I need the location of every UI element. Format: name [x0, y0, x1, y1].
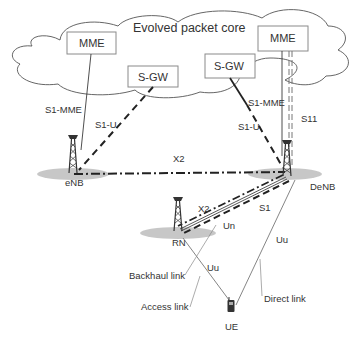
enb-label: eNB	[65, 177, 83, 188]
uu-rn-label: Uu	[207, 262, 219, 273]
rn-label: RN	[172, 237, 186, 248]
s1-u-left-label: S1-U	[95, 119, 117, 130]
svg-text:MME: MME	[79, 37, 105, 49]
ue-phone-icon	[228, 297, 235, 312]
s11-label: S11	[301, 113, 317, 124]
un-label: Un	[223, 220, 235, 231]
direct-link-label: Direct link	[264, 293, 306, 304]
enb-tower-icon	[68, 135, 78, 173]
svg-text:S-GW: S-GW	[138, 71, 169, 83]
x2-rn-label: X2	[198, 203, 210, 214]
x2-top-label: X2	[173, 153, 185, 164]
sgw-left-node: S-GW	[128, 66, 178, 87]
backhaul-link-label: Backhaul link	[129, 270, 185, 281]
denb-label: DeNB	[310, 181, 335, 192]
access-pointer	[190, 276, 200, 307]
access-link-label: Access link	[141, 301, 189, 312]
svg-text:MME: MME	[270, 32, 296, 44]
ue-label: UE	[225, 321, 238, 332]
denb-cell-coverage	[248, 168, 322, 180]
lte-relay-architecture-diagram: Evolved packet core MME S-GW S-GW MME	[0, 0, 359, 341]
x2-rn-link	[178, 175, 283, 226]
mme-right-node: MME	[258, 26, 308, 51]
s1-u-right-label: S1-U	[238, 121, 260, 132]
s1-u-right-link	[247, 105, 283, 168]
uu-access-link	[183, 238, 229, 300]
s1-mme-left-label: S1-MME	[45, 104, 82, 115]
s1-rn-label: S1	[259, 202, 271, 213]
mme-left-node: MME	[67, 32, 116, 54]
svg-text:S-GW: S-GW	[214, 60, 245, 72]
cloud-label: Evolved packet core	[133, 21, 246, 35]
sgw-right-node: S-GW	[205, 54, 255, 78]
direct-pointer	[260, 259, 262, 296]
s1-mme-right-link	[230, 78, 247, 105]
uu-denb-label: Uu	[276, 234, 288, 245]
denb-tower-icon	[282, 140, 292, 176]
evolved-packet-core-cloud: Evolved packet core	[12, 10, 348, 98]
s1-mme-right-label: S1-MME	[248, 97, 285, 108]
